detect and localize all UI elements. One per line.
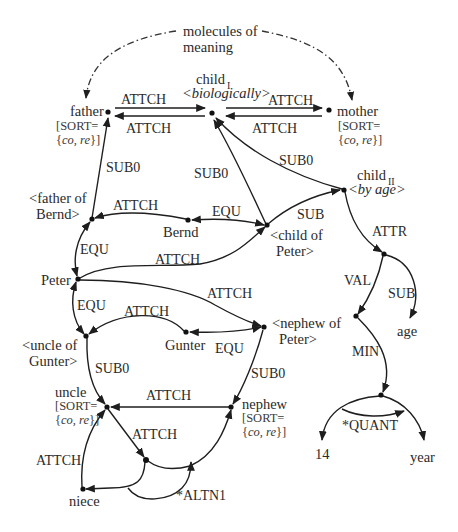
edge-label: ATTCH bbox=[146, 388, 191, 403]
nephew-sort-line1: [SORT= bbox=[242, 411, 284, 425]
node-label-peter: Peter bbox=[41, 272, 71, 288]
edge-label: EQU bbox=[80, 242, 109, 257]
edge-label: SUB0 bbox=[95, 361, 129, 376]
edge-label: SUB bbox=[388, 286, 415, 301]
edge-label: ATTCH bbox=[124, 304, 169, 319]
node-label-child-of-peter-1: <child of bbox=[270, 227, 323, 243]
edge-label: ATTCH bbox=[36, 453, 81, 468]
node-dot-nephew-of-peter bbox=[261, 324, 266, 329]
node-label-gunter: Gunter bbox=[165, 337, 205, 353]
edge-label: ATTCH bbox=[121, 92, 166, 107]
node-dot-mother bbox=[326, 107, 331, 112]
node-label-father-of-bernd-2: Bernd> bbox=[36, 206, 80, 222]
edge-bernd-cop-equ bbox=[192, 219, 264, 225]
node-label-nephew-of-peter-1: <nephew of bbox=[272, 315, 341, 331]
edge-junction-niece bbox=[86, 462, 145, 489]
father-sort-line1: [SORT= bbox=[56, 119, 98, 133]
node-label-age: age bbox=[397, 323, 417, 339]
edges: ATTCH ATTCH ATTCH ATTCH SUB0 SUB0 SUB0 S… bbox=[36, 92, 424, 503]
edge-label: EQU bbox=[212, 204, 241, 219]
edge-label: EQU bbox=[215, 341, 244, 356]
node-dot-child1 bbox=[209, 110, 214, 115]
edge-label: SUB0 bbox=[279, 153, 313, 168]
edge-label: *ALTN1 bbox=[176, 488, 226, 503]
node-dot-nephew bbox=[228, 404, 233, 409]
edge-label: ATTCH bbox=[113, 198, 158, 213]
child1-gloss: <biologically> bbox=[182, 85, 271, 101]
node-dot-uncle bbox=[104, 404, 109, 409]
edge-bernd-fob-attch bbox=[95, 213, 186, 219]
node-label-child-of-peter-2: Peter> bbox=[276, 243, 314, 259]
edge-label: *QUANT bbox=[342, 418, 398, 433]
edge-label: MIN bbox=[352, 344, 379, 359]
node-label-father: father bbox=[70, 103, 104, 119]
node-dot-father-of-bernd bbox=[89, 216, 94, 221]
edge-label: ATTCH bbox=[132, 427, 177, 442]
edge-label: ATTCH bbox=[252, 121, 297, 136]
edge-label: ATTCH bbox=[207, 286, 252, 301]
dashdot-arrow-to-mother bbox=[262, 31, 352, 100]
edge-label: VAL bbox=[344, 273, 371, 288]
node-label-father-of-bernd-1: <father of bbox=[29, 190, 87, 206]
node-label-uncle: uncle bbox=[55, 384, 86, 400]
edge-label: ATTCH bbox=[155, 252, 200, 267]
edge-label: EQU bbox=[77, 298, 106, 313]
uncle-sort-line1: [SORT= bbox=[55, 399, 97, 413]
mother-sort-line1: [SORT= bbox=[338, 119, 380, 133]
node-dot-gunter bbox=[183, 329, 188, 334]
node-label-nephew: nephew bbox=[242, 396, 288, 412]
node-label-uncle-of-gunter-1: <uncle of bbox=[22, 337, 77, 353]
edge-gunter-nop-equ bbox=[190, 327, 261, 332]
node-dot-uncle-of-gunter bbox=[83, 333, 88, 338]
node-dot-bernd bbox=[185, 217, 190, 222]
edge-child2-attr bbox=[345, 192, 382, 252]
node-label-nephew-of-peter-2: Peter> bbox=[279, 331, 317, 347]
node-dot-child2 bbox=[341, 187, 346, 192]
child2-gloss: <by age> bbox=[348, 181, 406, 197]
annotation-line2: meaning bbox=[183, 39, 233, 55]
node-label-bernd: Bernd bbox=[163, 224, 199, 240]
node-dot-father bbox=[105, 109, 110, 114]
edge-label: SUB bbox=[297, 207, 324, 222]
node-dot-peter bbox=[75, 276, 80, 281]
node-dot-val bbox=[353, 313, 358, 318]
node-dot-child-of-peter bbox=[264, 222, 269, 227]
edge-quant bbox=[342, 409, 404, 416]
edge-label: SUB0 bbox=[194, 166, 228, 181]
edge-label: ATTCH bbox=[268, 93, 313, 108]
nephew-sort-line2: {co, re}] bbox=[242, 425, 286, 439]
semantic-network-diagram: molecules of meaning ATTCH ATTCH ATTCH A… bbox=[0, 0, 458, 532]
node-label-14: 14 bbox=[315, 446, 330, 462]
node-dot-attr bbox=[381, 251, 386, 256]
node-label-mother: mother bbox=[337, 103, 378, 119]
edge-label: SUB0 bbox=[106, 160, 140, 175]
father-sort-line2: {co, re}] bbox=[56, 133, 100, 147]
node-dot-niece bbox=[80, 486, 85, 491]
node-label-niece: niece bbox=[69, 493, 100, 509]
edge-label: ATTCH bbox=[126, 121, 171, 136]
edge-label: SUB0 bbox=[251, 366, 285, 381]
node-label-uncle-of-gunter-2: Gunter> bbox=[29, 353, 77, 369]
annotation-line1: molecules of bbox=[183, 23, 258, 39]
edge-label: ATTR bbox=[372, 224, 408, 239]
uncle-sort-line2: {co, re}] bbox=[55, 413, 99, 427]
mother-sort-line2: {co, re}] bbox=[338, 133, 382, 147]
node-dot-junction bbox=[143, 457, 149, 463]
node-dot-min bbox=[378, 392, 383, 397]
node-label-year: year bbox=[410, 449, 435, 465]
dashdot-arrow-to-father bbox=[86, 31, 176, 98]
